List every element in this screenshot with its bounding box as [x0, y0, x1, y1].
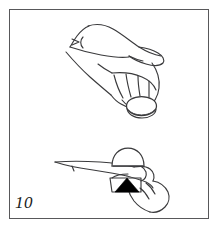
lower-hand-group	[55, 161, 169, 212]
figure-number-label: 10	[15, 194, 33, 211]
lower-hand-finger-2	[150, 181, 169, 212]
disc-upper-group	[127, 97, 157, 119]
upper-hand-palm-crease	[98, 64, 112, 73]
upper-hand-finger-line-3	[138, 76, 140, 96]
upper-hand-wrist-top	[70, 26, 89, 47]
figure-panel: 10	[0, 0, 220, 230]
motion-arrow-upper-tail	[81, 37, 83, 48]
upper-hand-finger-line-2	[126, 74, 131, 97]
upper-hand-finger-line-1	[114, 75, 123, 98]
disc-lower-group	[112, 148, 144, 166]
upper-hand-wrist-lower	[66, 52, 111, 95]
upper-hand-thumb	[129, 47, 164, 65]
motion-arrow-upper-icon	[72, 37, 83, 48]
disc-lower	[112, 148, 144, 166]
illustration-drawing	[0, 0, 220, 230]
direction-arrow-lower-icon	[115, 178, 139, 192]
upper-hand-top-contour	[88, 25, 161, 56]
upper-hand-palm-upper	[70, 47, 129, 57]
